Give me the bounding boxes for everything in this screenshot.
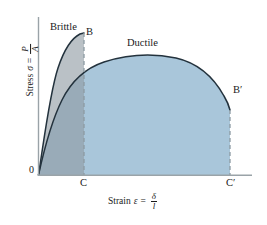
point-b-label: B — [86, 27, 93, 38]
strain-denominator: l — [151, 201, 158, 211]
sigma-symbol: σ — [26, 66, 36, 71]
x-axis-title-word: Strain — [108, 197, 131, 207]
ductile-curve-label: Ductile — [127, 38, 158, 49]
strain-fraction: δ l — [150, 192, 158, 212]
x-axis-title: Strain ε = δ l — [108, 192, 159, 212]
stress-strain-diagram: Brittle Ductile B B′ C C′ 0 Stress σ = P… — [0, 0, 267, 225]
point-c-prime-mark: ′ — [233, 177, 235, 188]
origin-label: 0 — [29, 165, 34, 175]
stress-denominator: A — [31, 44, 41, 54]
epsilon-symbol: ε — [134, 197, 138, 207]
point-c-prime-letter: C — [226, 177, 233, 188]
point-b-prime-label: B′ — [233, 85, 242, 96]
y-axis-title-inner: Stress σ = P A — [21, 43, 41, 96]
stress-fraction: P A — [21, 44, 41, 54]
x-axis-equals: = — [140, 197, 145, 207]
point-c-label: C — [80, 178, 87, 189]
brittle-curve-fill — [39, 33, 85, 175]
point-b-prime-letter: B — [233, 84, 240, 95]
point-c-prime-label: C′ — [226, 178, 235, 189]
x-axis-title-inner: Strain ε = δ l — [108, 192, 159, 212]
point-b-prime-mark: ′ — [240, 84, 242, 95]
y-axis-title-word: Stress — [26, 74, 36, 97]
y-axis-equals: = — [26, 58, 36, 63]
brittle-curve-label: Brittle — [50, 22, 77, 33]
stress-numerator: P — [21, 44, 30, 54]
strain-numerator: δ — [150, 192, 158, 201]
y-axis-title: Stress σ = P A — [21, 15, 41, 125]
